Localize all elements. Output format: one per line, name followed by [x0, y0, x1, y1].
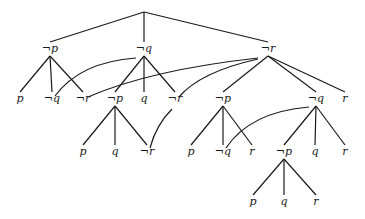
tree-node-label: ¬q: [44, 92, 60, 105]
tree-node-label: r: [342, 92, 348, 105]
tree-edge: [284, 159, 316, 195]
tree-node-label: ¬p: [215, 92, 231, 105]
tree-edge: [50, 12, 144, 42]
cross-link-curve: [55, 58, 136, 96]
tree-edge: [253, 159, 284, 195]
tree-node-label: q: [111, 145, 118, 158]
tree-node-label: ¬r: [76, 92, 91, 105]
tree-node-label: ¬r: [168, 92, 183, 105]
tree-node-label: ¬r: [261, 42, 276, 55]
tree-node-label: q: [280, 195, 287, 208]
tree-edge: [115, 106, 147, 145]
cross-link-curve: [150, 109, 172, 148]
tree-edge: [83, 106, 115, 145]
tree-edge: [50, 56, 52, 92]
logic-tree-diagram: ¬p¬q¬rp¬q¬r¬pq¬r¬p¬qrpq¬rp¬qr¬pqrpqr: [0, 0, 365, 219]
tree-node-label: ¬q: [136, 42, 152, 55]
tree-node-label: p: [249, 195, 256, 208]
tree-edge: [268, 56, 345, 92]
tree-node-label: q: [311, 145, 318, 158]
tree-edges: [20, 12, 345, 195]
tree-node-label: p: [79, 145, 86, 158]
tree-node-label: p: [16, 92, 23, 105]
tree-node-label: ¬q: [308, 92, 324, 105]
tree-node-label: q: [140, 92, 147, 105]
tree-node-label: ¬p: [42, 42, 58, 55]
tree-edge: [268, 56, 316, 92]
tree-node-label: ¬q: [215, 145, 231, 158]
tree-node-label: ¬p: [276, 145, 292, 158]
tree-edge: [115, 56, 144, 92]
tree-node-label: p: [187, 145, 194, 158]
tree-edge: [191, 106, 223, 145]
tree-edge: [50, 56, 83, 92]
tree-node-label: r: [313, 195, 319, 208]
tree-node-label: ¬r: [140, 145, 155, 158]
tree-node-label: ¬p: [107, 92, 123, 105]
tree-edge: [20, 56, 50, 92]
tree-edge: [315, 106, 316, 145]
tree-edge: [316, 106, 345, 145]
tree-node-label: r: [342, 145, 348, 158]
tree-edge: [284, 106, 316, 145]
tree-node-labels: ¬p¬q¬rp¬q¬r¬pq¬r¬p¬qrpq¬rp¬qr¬pqrpqr: [16, 42, 348, 208]
tree-node-label: r: [249, 145, 255, 158]
tree-edge: [144, 12, 268, 42]
